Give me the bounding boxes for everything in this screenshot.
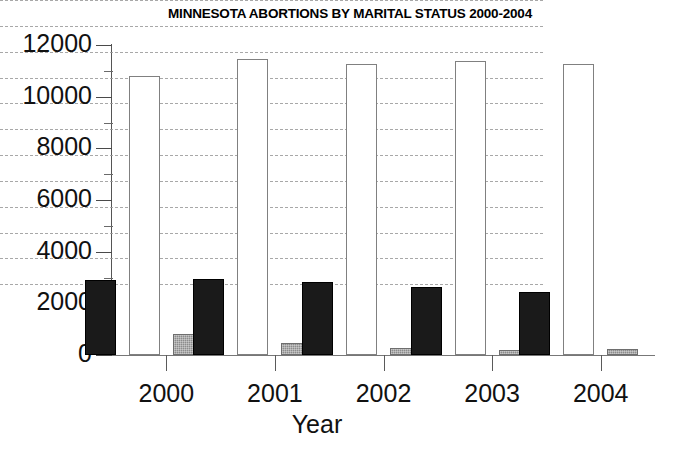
y-tick-label: 8000 — [0, 134, 92, 159]
bar-married-2001 — [193, 279, 224, 355]
bar-married-2000 — [85, 280, 116, 355]
chart-title: MINNESOTA ABORTIONS BY MARITAL STATUS 20… — [8, 6, 684, 21]
x-tick-mark — [275, 355, 276, 371]
y-tick-label: 4000 — [0, 238, 92, 263]
x-tick-mark — [166, 355, 167, 371]
x-tick-mark — [601, 355, 602, 371]
x-tick-mark — [384, 355, 385, 371]
y-tick-label: 0 — [0, 341, 92, 366]
x-tick-label: 2004 — [541, 379, 661, 407]
bar-unmarried-2002 — [346, 64, 377, 355]
y-tick-mark — [96, 252, 112, 253]
bar-married-2002 — [302, 282, 333, 355]
bar-married-2004 — [519, 292, 550, 355]
y-tick-mark — [96, 97, 112, 98]
bar-married-2003 — [411, 287, 442, 355]
x-axis-title: Year — [257, 410, 377, 438]
y-tick-mark — [96, 200, 112, 201]
plot-area — [112, 45, 655, 355]
bar-unmarried-2004 — [563, 64, 594, 355]
y-tick-label: 2000 — [0, 289, 92, 314]
x-tick-label: 2001 — [215, 379, 335, 407]
bar-unmarried-2003 — [455, 61, 486, 356]
x-axis-line — [104, 355, 655, 356]
bar-unknown-2004 — [607, 349, 638, 355]
y-tick-label: 10000 — [0, 83, 92, 108]
bar-unmarried-2001 — [237, 59, 268, 355]
y-tick-mark — [96, 355, 112, 356]
x-tick-mark — [492, 355, 493, 371]
bar-unmarried-2000 — [129, 76, 160, 355]
gridline-minor — [0, 26, 543, 27]
x-tick-label: 2000 — [106, 379, 226, 407]
bar-chart-figure: MINNESOTA ABORTIONS BY MARITAL STATUS 20… — [0, 0, 684, 476]
y-tick-label: 6000 — [0, 186, 92, 211]
y-tick-mark — [96, 45, 112, 46]
gridline-major — [0, 0, 543, 1]
y-tick-mark — [96, 148, 112, 149]
x-tick-label: 2003 — [432, 379, 552, 407]
x-tick-label: 2002 — [324, 379, 444, 407]
y-tick-label: 12000 — [0, 31, 92, 56]
